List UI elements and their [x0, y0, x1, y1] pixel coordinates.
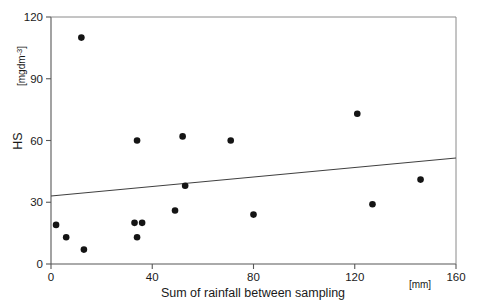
data-point — [134, 137, 141, 144]
scatter-plot-figure: 0306090120 04080120160 HS [mgdm-3] Sum o… — [0, 0, 477, 304]
axes-frame — [51, 17, 456, 264]
y-unit-superscript: -3 — [15, 49, 24, 56]
y-tick-label: 120 — [24, 11, 43, 23]
y-axis-ticks: 0306090120 — [24, 11, 51, 270]
y-tick-label: 90 — [30, 73, 43, 85]
y-unit-suffix: ] — [16, 46, 27, 49]
x-axis-unit: [mm] — [409, 279, 431, 290]
data-point — [134, 234, 141, 241]
x-tick-label: 160 — [446, 271, 465, 283]
x-tick-label: 40 — [146, 271, 159, 283]
data-point — [131, 220, 138, 227]
regression-trend-line — [51, 158, 456, 196]
y-tick-label: 30 — [30, 196, 43, 208]
trend-line-group — [51, 158, 456, 196]
data-point — [81, 246, 88, 253]
data-point — [172, 207, 179, 214]
data-point — [139, 220, 146, 227]
y-tick-label: 0 — [37, 258, 43, 270]
x-tick-label: 0 — [48, 271, 54, 283]
x-axis-title: Sum of rainfall between sampling — [161, 286, 345, 300]
data-point — [417, 176, 424, 183]
data-point — [369, 201, 376, 208]
data-point — [179, 133, 186, 140]
data-point — [53, 222, 60, 229]
data-point — [354, 110, 361, 117]
y-unit-prefix: [mgdm — [16, 55, 27, 86]
data-point — [182, 182, 189, 189]
data-point — [227, 137, 234, 144]
x-axis-ticks: 04080120160 — [48, 264, 466, 283]
y-tick-label: 60 — [30, 135, 43, 147]
data-point-group — [53, 34, 424, 253]
x-tick-label: 80 — [247, 271, 260, 283]
plot-svg: 0306090120 04080120160 HS [mgdm-3] Sum o… — [0, 0, 477, 304]
y-axis-unit: [mgdm-3] — [15, 46, 27, 86]
data-point — [78, 34, 85, 41]
x-tick-label: 120 — [345, 271, 364, 283]
data-point — [250, 211, 257, 218]
y-axis-title: HS — [11, 132, 25, 149]
data-point — [63, 234, 70, 241]
